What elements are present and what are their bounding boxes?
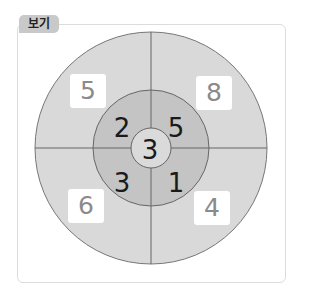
outer-top-right: 8 — [196, 76, 232, 110]
middle-top-left: 2 — [107, 115, 137, 141]
center-number: 3 — [135, 137, 165, 163]
outer-bottom-left: 6 — [68, 189, 104, 223]
middle-bottom-left: 3 — [107, 170, 137, 196]
outer-bottom-right: 4 — [194, 191, 230, 225]
middle-top-right: 5 — [161, 115, 191, 141]
outer-top-left: 5 — [70, 74, 106, 108]
middle-bottom-right: 1 — [161, 170, 191, 196]
